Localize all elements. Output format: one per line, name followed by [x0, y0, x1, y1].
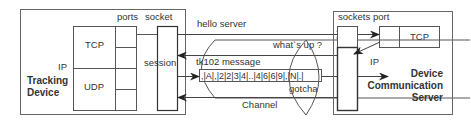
server-ip-label: IP — [370, 56, 379, 67]
tcp-label: TCP — [85, 39, 104, 50]
server-title-3: Server — [412, 92, 443, 103]
socket-label: socket — [145, 11, 173, 22]
session-label: session — [144, 57, 176, 68]
device-title-1: Tracking — [27, 75, 68, 86]
hello-label: hello server — [197, 18, 246, 29]
ip-label: IP — [58, 61, 67, 72]
udp-label: UDP — [84, 81, 104, 92]
whatsup-label: what`s up ? — [272, 39, 322, 50]
protocol-diagram: ports socket TCP UDP IP session Tracking… — [0, 0, 471, 123]
sockets-column — [338, 27, 358, 111]
gotcha-label: gotcha — [289, 83, 318, 94]
session-socket — [158, 27, 178, 111]
server-title-2: Communication — [367, 80, 443, 91]
message-title: tk102 message — [196, 56, 260, 67]
channel-label: Channel — [242, 99, 277, 110]
sockets-label: sockets — [338, 11, 370, 22]
message-content: ,|A|,|2|2|3|4|..|4|6|6|9|,|N|.| — [201, 71, 304, 81]
port-label: port — [373, 11, 390, 22]
server-title-1: Device — [411, 68, 444, 79]
server-tcp-label: TCP — [410, 31, 429, 42]
ports-label: ports — [117, 11, 138, 22]
device-title-2: Device — [27, 87, 60, 98]
